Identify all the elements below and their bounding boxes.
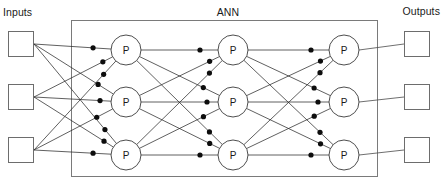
weight-dot [207, 59, 212, 64]
perceptron-node-label: P [230, 97, 237, 108]
weight-dot [312, 114, 317, 119]
input-box-1[interactable] [9, 32, 34, 57]
weight-dot [308, 152, 313, 157]
weight-dot [90, 45, 95, 50]
perceptron-node-label: P [123, 45, 130, 56]
weight-dot [318, 141, 323, 146]
output-box-3[interactable] [405, 138, 430, 163]
perceptron-node-label: P [341, 45, 348, 56]
output-box-1[interactable] [405, 32, 430, 57]
weight-dot [207, 141, 212, 146]
perceptron-node-label: P [230, 150, 237, 161]
weight-dot [201, 85, 206, 90]
perceptron-node-label: P [341, 97, 348, 108]
weight-dot [197, 152, 202, 157]
ann-diagram-svg: PPPPPPPPP [0, 0, 443, 192]
weight-dot [207, 129, 212, 134]
perceptron-node-label: P [341, 150, 348, 161]
input-box-3[interactable] [9, 138, 34, 163]
output-boxes-group [405, 32, 430, 163]
connection-line [359, 44, 404, 50]
weight-dot [94, 115, 99, 120]
weight-dot [308, 47, 313, 52]
weight-dot [102, 127, 107, 132]
connection-line [34, 150, 111, 154]
output-box-2[interactable] [405, 85, 430, 110]
connection-line [359, 97, 404, 102]
connection-line [34, 97, 113, 147]
weight-dot [100, 59, 105, 64]
perceptron-node-label: P [230, 45, 237, 56]
weight-dot [317, 130, 322, 135]
connection-line [34, 44, 113, 94]
perceptron-node-label: P [123, 97, 130, 108]
connection-line [34, 109, 113, 150]
weight-dot [201, 114, 206, 119]
connection-line [34, 44, 111, 49]
weight-dot [95, 82, 100, 87]
weight-dot [197, 47, 202, 52]
layer3-to-output-edges [359, 44, 404, 155]
connection-line [359, 150, 404, 155]
perceptron-nodes-group: PPPPPPPPP [111, 35, 359, 170]
weight-dot [101, 139, 106, 144]
input-boxes-group [9, 32, 34, 163]
perceptron-node-label: P [123, 150, 130, 161]
weight-dot [315, 99, 320, 104]
input-box-2[interactable] [9, 85, 34, 110]
weight-dot [97, 98, 102, 103]
weight-dot [90, 151, 95, 156]
weight-dot [101, 72, 106, 77]
weight-dot [318, 58, 323, 63]
weight-dot [312, 85, 317, 90]
weight-dot [204, 99, 209, 104]
ann-diagram-canvas: Inputs ANN Outputs PPPPPPPPP [0, 0, 443, 192]
weight-dot [317, 70, 322, 75]
weight-dot [207, 71, 212, 76]
